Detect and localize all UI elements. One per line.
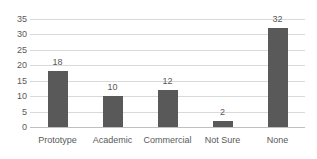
- bar-group: 2: [195, 19, 250, 127]
- bar[interactable]: [268, 28, 288, 127]
- y-axis: 05101520253035: [0, 0, 27, 159]
- bar-chart: 05101520253035 181012232 PrototypeAcadem…: [0, 0, 317, 159]
- bar[interactable]: [48, 71, 68, 127]
- x-axis: PrototypeAcademicCommercialNot SureNone: [30, 131, 305, 157]
- x-tick-label: None: [267, 135, 289, 145]
- bar-value-label: 12: [162, 77, 172, 86]
- y-tick-label: 15: [0, 76, 27, 85]
- bar-value-label: 10: [107, 83, 117, 92]
- bar-group: 12: [140, 19, 195, 127]
- y-tick-label: 35: [0, 15, 27, 24]
- bar-value-label: 32: [272, 15, 282, 24]
- x-axis-line: [30, 127, 305, 128]
- bar-value-label: 2: [220, 108, 225, 117]
- bar-value-label: 18: [52, 58, 62, 67]
- x-tick-label: Prototype: [38, 135, 77, 145]
- x-tick-label: Academic: [93, 135, 133, 145]
- y-tick-label: 5: [0, 107, 27, 116]
- y-tick-label: 0: [0, 123, 27, 132]
- y-tick-label: 30: [0, 30, 27, 39]
- plot-area: 181012232: [30, 19, 305, 127]
- bar[interactable]: [158, 90, 178, 127]
- y-tick-label: 20: [0, 61, 27, 70]
- bar[interactable]: [103, 96, 123, 127]
- bar-group: 10: [85, 19, 140, 127]
- y-tick-label: 10: [0, 92, 27, 101]
- bar-group: 32: [250, 19, 305, 127]
- x-tick-label: Not Sure: [205, 135, 241, 145]
- x-tick-label: Commercial: [143, 135, 191, 145]
- bar-group: 18: [30, 19, 85, 127]
- y-tick-label: 25: [0, 45, 27, 54]
